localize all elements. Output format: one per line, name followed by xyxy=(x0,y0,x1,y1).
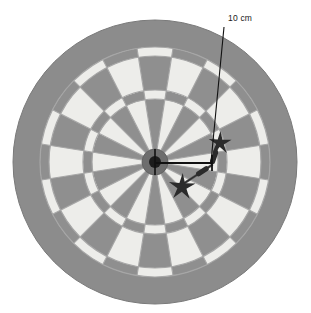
dartboard-figure: 10 cm xyxy=(0,0,311,313)
diagram-canvas: 10 cm xyxy=(0,0,311,313)
distance-label: 10 cm xyxy=(228,13,252,23)
board-segment xyxy=(83,151,93,174)
board-segment xyxy=(144,90,167,100)
board-segment xyxy=(217,151,227,174)
board-segment xyxy=(144,224,167,234)
